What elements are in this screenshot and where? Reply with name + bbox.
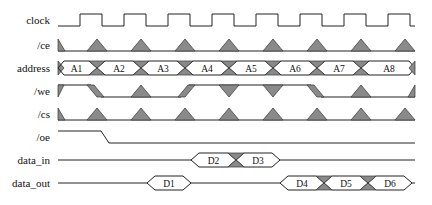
pulse-icon xyxy=(351,85,371,97)
bus-cross xyxy=(228,160,244,167)
pulse-icon xyxy=(351,39,371,51)
bus-cross xyxy=(353,68,369,75)
signal-label-we: /we xyxy=(34,85,50,97)
bus-cross xyxy=(177,68,193,75)
data-out-value: D1 xyxy=(163,179,175,189)
clock-waveform xyxy=(58,14,415,26)
bus-cross xyxy=(316,176,332,183)
bus-edge xyxy=(58,61,64,75)
signal-label-clock: clock xyxy=(26,14,50,26)
timing-diagram: clock/ceaddress/we/cs/oedata_indata_out … xyxy=(0,0,432,205)
bus-cross xyxy=(265,61,281,68)
data-out-value: D5 xyxy=(340,179,352,189)
edge-icon xyxy=(178,85,195,97)
pulse-icon xyxy=(307,108,327,120)
address-value: A3 xyxy=(157,64,169,74)
bus-cross xyxy=(265,68,281,75)
pulse-icon xyxy=(87,108,107,120)
pulse-icon xyxy=(395,108,415,120)
signal-label-data-in: data_in xyxy=(18,154,51,166)
pulse-icon xyxy=(219,39,239,51)
pulse-icon xyxy=(408,85,415,97)
bus-cross xyxy=(221,61,237,68)
pulse-icon xyxy=(219,108,239,120)
bus-cross xyxy=(89,61,105,68)
bus-cross xyxy=(353,61,369,68)
address-value: A6 xyxy=(289,64,301,74)
bus-cross xyxy=(228,153,244,160)
pulse-icon xyxy=(131,39,151,51)
signal-label-oe: /oe xyxy=(37,131,51,143)
bus-cross xyxy=(133,68,149,75)
pulse-icon xyxy=(58,85,64,97)
bus-cross xyxy=(89,68,105,75)
pulse-icon xyxy=(87,39,107,51)
bus-cross xyxy=(360,176,376,183)
address-value: A2 xyxy=(113,64,125,74)
signal-label-cs: /cs xyxy=(38,108,50,120)
pulse-icon xyxy=(219,85,239,97)
bus-cross xyxy=(221,68,237,75)
pulse-icon xyxy=(263,85,283,97)
address-value: A4 xyxy=(201,64,213,74)
address-value: A5 xyxy=(245,64,257,74)
pulse-icon xyxy=(307,39,327,51)
bus-cross xyxy=(360,183,376,190)
bus-edge xyxy=(409,61,415,75)
address-value: A7 xyxy=(333,64,345,74)
pulse-icon xyxy=(263,108,283,120)
data-out-value: D6 xyxy=(384,179,396,189)
signal-label-ce: /ce xyxy=(37,39,50,51)
edge-icon xyxy=(87,85,104,97)
address-value: A8 xyxy=(383,64,395,74)
address-value: A1 xyxy=(71,64,83,74)
pulse-icon xyxy=(175,39,195,51)
signal-label-address: address xyxy=(17,62,50,74)
pulse-icon xyxy=(58,39,65,51)
data-in-value: D2 xyxy=(208,156,220,166)
pulse-icon xyxy=(263,39,283,51)
pulse-icon xyxy=(58,108,65,120)
pulse-icon xyxy=(131,85,151,97)
bus-cross xyxy=(133,61,149,68)
oe-waveform xyxy=(58,131,415,143)
signal-label-data-out: data_out xyxy=(12,177,50,189)
bus-cross xyxy=(309,68,325,75)
data-in-value: D3 xyxy=(252,156,264,166)
edge-icon xyxy=(307,85,324,97)
data-out-value: D4 xyxy=(296,179,308,189)
pulse-icon xyxy=(175,108,195,120)
pulse-icon xyxy=(131,108,151,120)
bus-cross xyxy=(177,61,193,68)
pulse-icon xyxy=(351,108,371,120)
bus-cross xyxy=(309,61,325,68)
bus-cross xyxy=(316,183,332,190)
pulse-icon xyxy=(395,39,415,51)
